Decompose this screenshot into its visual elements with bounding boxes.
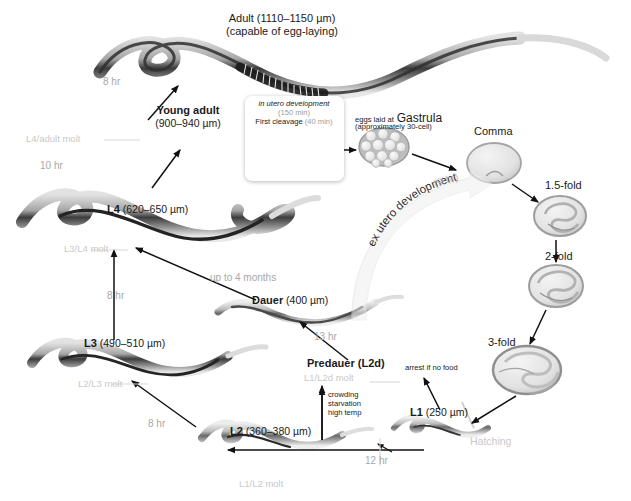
trigger-high-temp: high temp: [328, 409, 361, 418]
gastrula-note: (approximately 30-cell): [355, 122, 432, 131]
l4-label: L4 (620–650 µm): [107, 203, 188, 216]
adult-note: (capable of egg-laying): [226, 25, 338, 38]
in-utero-title: in utero development: [259, 99, 330, 108]
dauer-size: (400 µm): [286, 294, 328, 306]
l3-size: (490–510 µm): [100, 337, 166, 349]
first-cleavage-time: (40 min): [305, 117, 333, 126]
duration-dauer-to-l4: up to 4 months: [210, 272, 276, 284]
in-utero-time: (150 min): [278, 108, 310, 117]
arrow-3fold-to-l1: [472, 396, 516, 423]
first-cleavage-text: First cleavage: [255, 117, 302, 126]
arrow-2fold-to-3fold: [530, 310, 546, 344]
worm-l4: [22, 195, 318, 240]
l2-label: L2 (360–380 µm): [230, 425, 311, 438]
fold2-label: 2-fold: [545, 250, 573, 263]
adult-label: Adult (1110–1150 µm) (capable of egg-lay…: [226, 12, 338, 39]
young-adult-size: (900–940 µm): [155, 117, 221, 130]
young-adult-label: Young adult (900–940 µm): [155, 104, 221, 130]
duration-adult: 8 hr: [103, 76, 120, 88]
fold15-label: 1.5-fold: [545, 179, 582, 192]
molt-hatching: Hatching: [470, 435, 511, 448]
arrow-l4-to-young-adult: [152, 150, 180, 188]
l2-name: L2: [230, 425, 243, 437]
l2-size: (360–380 µm): [246, 425, 312, 437]
molt-l1-l2: L1/L2 molt: [239, 478, 283, 490]
embryo-3-fold: [493, 346, 561, 394]
molt-l1-l2d: L1/L2d molt: [304, 372, 354, 384]
l3-label: L3 (490–510 µm): [84, 337, 165, 350]
comma-label: Comma: [474, 125, 513, 138]
young-adult-name: Young adult: [155, 104, 221, 117]
duration-dauer: 13 hr: [314, 331, 337, 343]
l3-name: L3: [84, 337, 97, 349]
l1-arrest-label: arrest if no food: [405, 363, 458, 372]
arrow-gastrula-to-comma: [412, 154, 456, 170]
l4-size: (620–650 µm): [123, 203, 189, 215]
embryo-1-5-fold: [534, 196, 586, 236]
embryo-2-fold: [529, 265, 583, 307]
fold3-label: 3-fold: [488, 336, 516, 349]
molt-l3-l4: L3/L4 molt: [64, 243, 108, 255]
predauer-label: Predauer (L2d): [307, 357, 385, 370]
adult-name: Adult (1110–1150 µm): [226, 12, 338, 25]
l1-name: L1: [410, 406, 423, 418]
life-cycle-figure: ex utero development (9 hr) Adult (1110–…: [0, 0, 631, 501]
dauer-label: Dauer (400 µm): [252, 294, 328, 307]
duration-l3: 8 hr: [148, 418, 165, 430]
duration-l2: 12 hr: [365, 455, 388, 467]
first-cleavage-label: First cleavage (40 min): [255, 117, 332, 126]
molt-l2-l3: L2/L3 molt: [78, 378, 122, 390]
l1-label: L1 (250 µm): [410, 406, 468, 419]
molt-l4-adult: L4/adult molt: [26, 133, 80, 145]
dauer-triggers: crowding starvation high temp: [328, 391, 361, 418]
duration-l4: 8 hr: [107, 290, 124, 302]
arrow-comma-to-15fold: [512, 184, 538, 202]
duration-young-adult: 10 hr: [40, 160, 63, 172]
dauer-name: Dauer: [252, 294, 283, 306]
l1-size: (250 µm): [426, 406, 468, 418]
l4-name: L4: [107, 203, 120, 215]
embryo-gastrula: [359, 128, 409, 167]
